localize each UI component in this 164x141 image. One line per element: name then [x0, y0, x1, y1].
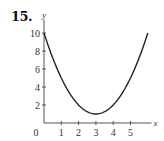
y-tick-label: 4 [35, 82, 40, 93]
axes [44, 20, 152, 124]
x-tick-label: 5 [128, 127, 133, 138]
parabola-curve [44, 33, 148, 114]
x-axis-label: x [153, 118, 158, 128]
parabola-plot: xy123452468100 [0, 0, 164, 141]
x-tick-label: 2 [76, 127, 81, 138]
tick-labels: xy123452468100 [30, 10, 158, 139]
y-tick-label: 10 [30, 28, 40, 39]
x-tick-label: 3 [93, 127, 98, 138]
x-tick-label: 1 [59, 127, 64, 138]
y-tick-label: 2 [35, 100, 40, 111]
origin-label: 0 [34, 127, 39, 138]
y-tick-label: 8 [35, 46, 40, 57]
x-tick-label: 4 [111, 127, 116, 138]
figure: 15. xy123452468100 [0, 0, 164, 141]
y-tick-label: 6 [35, 64, 40, 75]
y-axis-label: y [41, 10, 46, 20]
